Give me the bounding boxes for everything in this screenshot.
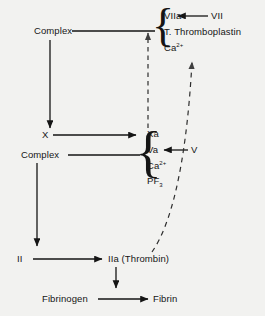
node-va: Va — [147, 144, 158, 155]
node-calcium-mid: Ca2+ — [147, 160, 166, 171]
node-factor-ii: II — [17, 253, 22, 264]
calcium-mid-symbol: Ca — [147, 160, 159, 171]
calcium-top-charge: 2+ — [176, 42, 183, 48]
node-viia: VIIa — [164, 10, 181, 21]
node-complex-mid: Complex — [21, 149, 59, 160]
node-tissue-thromboplastin: T. Thromboplastin — [164, 26, 241, 37]
node-complex-top: Complex — [34, 25, 72, 36]
node-xa: Xa — [147, 128, 159, 139]
calcium-top-symbol: Ca — [164, 42, 176, 53]
node-factor-x: X — [42, 129, 48, 140]
node-factor-vii: VII — [211, 10, 223, 21]
node-calcium-top: Ca2+ — [164, 42, 183, 53]
pf3-subscript: 3 — [159, 182, 162, 188]
calcium-mid-charge: 2+ — [159, 160, 166, 166]
node-fibrin: Fibrin — [153, 293, 177, 304]
node-iia-thrombin: IIa (Thrombin) — [108, 253, 169, 264]
pf3-symbol: PF — [147, 175, 159, 186]
node-factor-v: V — [191, 144, 197, 155]
node-pf3: PF3 — [147, 175, 163, 186]
node-fibrinogen: Fibrinogen — [42, 293, 88, 304]
